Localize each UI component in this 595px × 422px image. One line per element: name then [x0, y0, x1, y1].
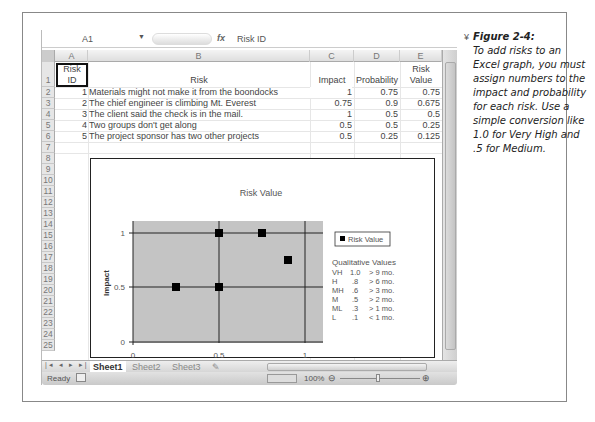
active-cell-outline — [56, 63, 88, 87]
row-header[interactable]: 16 — [42, 241, 55, 252]
qv-code: ML — [332, 304, 342, 313]
cell-value[interactable]: 0.125 — [400, 131, 440, 142]
row-header[interactable]: 24 — [42, 329, 55, 340]
row-header[interactable]: 23 — [42, 318, 55, 329]
excel-window: A1 ▼ fx Risk ID ¥ A B C D E 1 2 3 4 5 6 … — [41, 30, 456, 385]
gridline — [55, 142, 442, 143]
zoom-out-button[interactable]: ⊖ — [328, 373, 336, 383]
expand-formula-bar-icon[interactable]: ¥ — [464, 32, 469, 42]
qv-value: .8 — [352, 277, 358, 286]
qv-code: L — [332, 313, 336, 322]
row-header[interactable]: 6 — [42, 131, 55, 142]
row-header[interactable]: 7 — [42, 142, 55, 153]
cell-probability[interactable]: 0.25 — [354, 131, 398, 142]
legend-marker-icon — [340, 236, 345, 241]
row-header[interactable]: 20 — [42, 285, 55, 296]
cell-probability[interactable]: 0.9 — [354, 98, 398, 109]
cell-probability[interactable]: 0.75 — [354, 87, 398, 98]
data-point[interactable] — [215, 283, 223, 291]
cell-value[interactable]: 0.675 — [400, 98, 440, 109]
column-header-c[interactable]: C — [310, 50, 354, 62]
row-header[interactable]: 21 — [42, 296, 55, 307]
formula-input[interactable]: Risk ID — [237, 34, 266, 44]
cell-id[interactable]: 4 — [56, 120, 87, 131]
view-buttons[interactable] — [267, 374, 297, 383]
cell-id[interactable]: 2 — [56, 98, 87, 109]
row-header[interactable]: 14 — [42, 219, 55, 230]
y-tick: 0 — [121, 338, 126, 347]
row-header[interactable]: 3 — [42, 98, 55, 109]
cell-risk[interactable]: Materials might not make it from the boo… — [89, 87, 329, 98]
cell-id[interactable]: 5 — [56, 131, 87, 142]
cell-risk[interactable]: The client said the check is in the mail… — [89, 109, 309, 120]
row-header[interactable]: 15 — [42, 230, 55, 241]
status-mode: Ready — [47, 374, 70, 383]
formula-controls[interactable] — [152, 33, 212, 45]
row-header[interactable]: 2 — [42, 87, 55, 98]
row-header[interactable]: 22 — [42, 307, 55, 318]
zoom-in-button[interactable]: ⊕ — [422, 373, 430, 383]
cell-risk[interactable]: Two groups don't get along — [89, 120, 309, 131]
cell-value[interactable]: 0.75 — [400, 87, 440, 98]
insert-function-button[interactable]: fx — [217, 33, 225, 43]
zoom-slider[interactable] — [340, 378, 420, 379]
horizontal-scrollbar[interactable] — [267, 363, 427, 371]
status-bar: Ready 100% ⊖ ⊕ — [42, 372, 457, 385]
cell-impact[interactable]: 0.75 — [310, 98, 352, 109]
data-point[interactable] — [258, 229, 266, 237]
qv-desc: > 6 mo. — [369, 277, 394, 286]
cell-impact[interactable]: 0.5 — [310, 131, 352, 142]
vertical-scroll-thumb[interactable] — [445, 62, 456, 350]
row-header[interactable]: 13 — [42, 208, 55, 219]
column-header-a[interactable]: A — [56, 50, 88, 62]
zoom-slider-thumb[interactable] — [376, 374, 380, 382]
data-point[interactable] — [215, 229, 223, 237]
cell-impact[interactable]: 0.5 — [310, 120, 352, 131]
data-point[interactable] — [172, 283, 180, 291]
caption-title: Figure 2-4: — [473, 30, 588, 44]
scatter-chart[interactable]: Risk Value 1 0.5 0 0 0.5 1 Impact Risk V — [90, 158, 435, 358]
column-header-e[interactable]: E — [400, 50, 442, 62]
cell-risk[interactable]: The chief engineer is climbing Mt. Evere… — [89, 98, 309, 109]
cell-id[interactable]: 1 — [56, 87, 87, 98]
cell-probability[interactable]: 0.5 — [354, 120, 398, 131]
cell-impact[interactable]: 1 — [310, 109, 352, 120]
row-header[interactable]: 12 — [42, 197, 55, 208]
plot-area — [133, 221, 323, 343]
qualitative-title: Qualitative Values — [332, 258, 396, 267]
cell-id[interactable]: 3 — [56, 109, 87, 120]
select-all-button[interactable] — [42, 50, 55, 62]
data-point[interactable] — [284, 256, 292, 264]
y-tick: 0.5 — [114, 283, 126, 292]
row-header[interactable]: 9 — [42, 164, 55, 175]
column-header-b[interactable]: B — [88, 50, 310, 62]
cell-e1-line2[interactable]: Value — [400, 75, 442, 86]
name-box[interactable]: A1 — [82, 34, 142, 44]
qv-code: M — [332, 295, 338, 304]
row-header[interactable]: 11 — [42, 186, 55, 197]
row-header[interactable]: 1 — [42, 62, 55, 87]
row-header[interactable]: 5 — [42, 120, 55, 131]
cell-e1-line1[interactable]: Risk — [400, 64, 442, 75]
cell-impact[interactable]: 1 — [310, 87, 352, 98]
row-header[interactable]: 8 — [42, 153, 55, 164]
cell-risk[interactable]: The project sponsor has two other projec… — [89, 131, 309, 142]
name-box-dropdown-icon[interactable]: ▼ — [138, 33, 145, 40]
macro-record-icon[interactable] — [76, 373, 86, 382]
vertical-scrollbar[interactable] — [442, 50, 457, 360]
row-header[interactable]: 17 — [42, 252, 55, 263]
cell-d1[interactable]: Probability — [354, 75, 400, 86]
tab-scroll-buttons[interactable]: |◂ ◂ ▸ ▸| — [45, 361, 88, 369]
cell-b1[interactable]: Risk — [88, 75, 310, 86]
cell-probability[interactable]: 0.5 — [354, 109, 398, 120]
cell-value[interactable]: 0.25 — [400, 120, 440, 131]
zoom-level[interactable]: 100% — [304, 374, 324, 383]
row-header[interactable]: 19 — [42, 274, 55, 285]
column-header-d[interactable]: D — [354, 50, 400, 62]
row-header[interactable]: 25 — [42, 340, 55, 351]
cell-c1[interactable]: Impact — [310, 75, 354, 86]
row-header[interactable]: 4 — [42, 109, 55, 120]
row-header[interactable]: 10 — [42, 175, 55, 186]
cell-value[interactable]: 0.5 — [400, 109, 440, 120]
row-header[interactable]: 18 — [42, 263, 55, 274]
